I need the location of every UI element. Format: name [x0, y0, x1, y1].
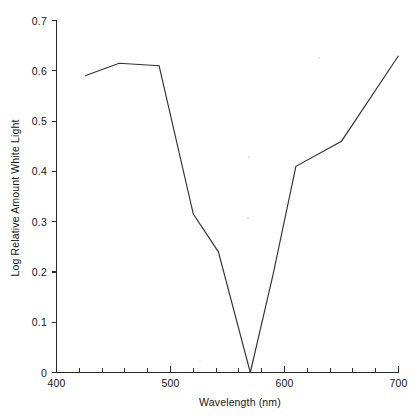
x-axis-tick-labels: 400 500 600 700 — [47, 377, 407, 389]
y-tick-label: 0 — [41, 367, 47, 379]
y-axis-title: Log Relative Amount White Light — [9, 120, 21, 277]
data-series-line — [85, 56, 399, 373]
x-tick-label: 600 — [275, 377, 293, 389]
y-tick-label: 0.4 — [32, 165, 47, 177]
y-tick-label: 0.6 — [32, 65, 47, 77]
line-chart-svg: 0.7 0.6 0.5 0.4 0.3 0.2 0.1 0 — [0, 0, 418, 417]
chart-figure: 0.7 0.6 0.5 0.4 0.3 0.2 0.1 0 — [0, 0, 418, 417]
scan-artifacts — [199, 57, 319, 361]
x-tick-label: 500 — [161, 377, 179, 389]
x-axis-title: Wavelength (nm) — [199, 396, 281, 408]
y-axis-tick-labels: 0.7 0.6 0.5 0.4 0.3 0.2 0.1 0 — [32, 15, 47, 379]
y-tick-label: 0.1 — [32, 316, 47, 328]
x-tick-label: 400 — [47, 377, 65, 389]
y-tick-label: 0.7 — [32, 15, 47, 27]
axis-frame — [57, 21, 399, 373]
y-axis-ticks — [52, 21, 57, 373]
x-tick-label: 700 — [389, 377, 407, 389]
y-tick-label: 0.2 — [32, 266, 47, 278]
axis-lines — [57, 21, 399, 373]
x-axis-ticks — [57, 366, 399, 373]
y-tick-label: 0.5 — [32, 115, 47, 127]
y-tick-label: 0.3 — [32, 216, 47, 228]
